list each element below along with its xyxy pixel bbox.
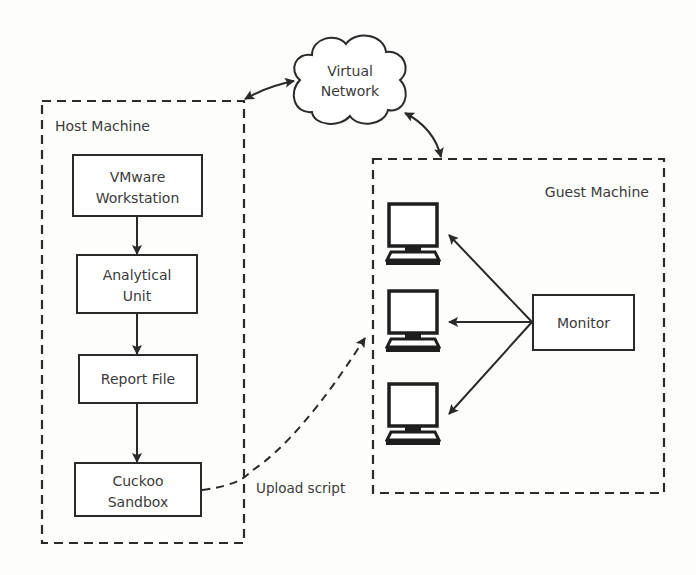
- virtual-network-cloud: Virtual Network: [294, 36, 406, 124]
- svg-text:Sandbox: Sandbox: [108, 494, 169, 510]
- guest-machine-title: Guest Machine: [545, 184, 649, 200]
- svg-text:Unit: Unit: [123, 288, 152, 304]
- analytical-unit-node: Analytical Unit: [77, 255, 197, 313]
- computer-icon: [386, 204, 440, 265]
- arrow-host-cloud: [245, 81, 294, 99]
- svg-text:Network: Network: [321, 83, 380, 99]
- computer-icons: [386, 204, 440, 445]
- svg-text:Workstation: Workstation: [96, 190, 180, 206]
- monitor-arrows: [449, 235, 532, 414]
- monitor-node: Monitor: [533, 295, 634, 350]
- upload-script-label: Upload script: [256, 480, 345, 496]
- upload-script-edge: Upload script: [202, 338, 365, 496]
- svg-text:Monitor: Monitor: [557, 315, 610, 331]
- svg-text:Cuckoo: Cuckoo: [112, 473, 163, 489]
- cuckoo-sandbox-node: Cuckoo Sandbox: [75, 463, 201, 516]
- arrow-monitor-to-computer-1: [449, 235, 532, 322]
- svg-text:VMware: VMware: [110, 169, 166, 185]
- computer-icon: [386, 384, 440, 445]
- svg-text:Report File: Report File: [101, 371, 175, 387]
- arrow-cloud-guest: [405, 113, 441, 157]
- report-file-node: Report File: [79, 355, 197, 403]
- host-machine-title: Host Machine: [55, 118, 150, 134]
- svg-text:Analytical: Analytical: [103, 267, 172, 283]
- vmware-workstation-node: VMware Workstation: [73, 155, 202, 216]
- diagram-canvas: Host Machine VMware Workstation Analytic…: [0, 0, 696, 575]
- svg-text:Virtual: Virtual: [327, 63, 373, 79]
- arrow-monitor-to-computer-3: [449, 322, 532, 414]
- computer-icon: [386, 291, 440, 352]
